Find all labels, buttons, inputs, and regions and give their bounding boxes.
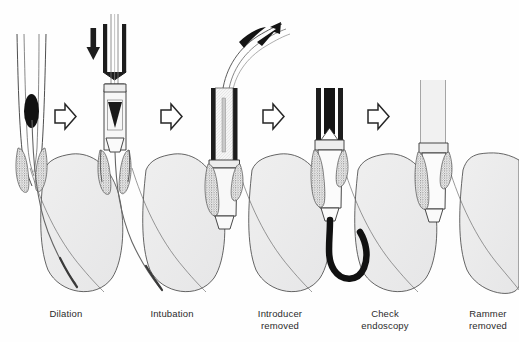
figure-esophageal-stent-sequence: Dilation Intubation Introducer removed C… xyxy=(0,0,519,342)
rammer-tube-right xyxy=(338,88,343,140)
stent-collar xyxy=(419,143,448,153)
stent-collar xyxy=(209,160,240,168)
rammer-tube-left xyxy=(103,24,107,72)
illustration-canvas xyxy=(0,0,519,342)
stomach-outline xyxy=(460,153,519,294)
stent-inner-channel xyxy=(222,98,226,152)
rammer-tube-left xyxy=(316,88,321,140)
rammer-tube-left xyxy=(211,88,216,162)
stricture-tumor xyxy=(24,94,39,128)
stent-collar xyxy=(315,140,344,150)
rammer-tube-right xyxy=(233,88,238,162)
endoscope-shaft xyxy=(324,88,335,134)
rammer-tube-right xyxy=(122,24,126,72)
stent-collar xyxy=(104,84,126,92)
esophagus-lumen xyxy=(421,80,445,143)
